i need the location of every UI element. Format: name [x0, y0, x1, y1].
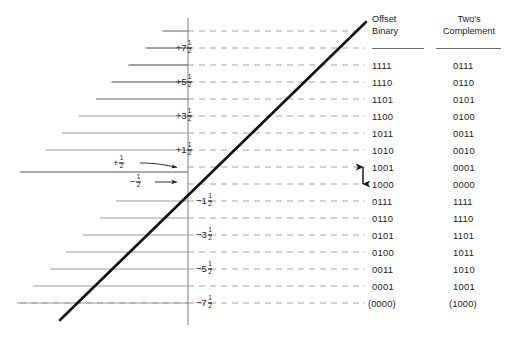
y-tick-label-plus-7-half: +712	[176, 40, 192, 55]
offset-binary-code: 1011	[372, 128, 393, 139]
offset-binary-code: 0100	[372, 247, 394, 258]
transfer-characteristic-line	[60, 22, 366, 320]
y-tick-label-minus-5-half: −512	[196, 261, 212, 276]
twos-complement-code: (1000)	[449, 298, 477, 309]
offset-binary-code: 1101	[372, 94, 393, 105]
offset-binary-code: 1001	[372, 162, 394, 173]
twos-complement-code: 0100	[453, 111, 475, 122]
annotation-minus-half: −12	[130, 174, 141, 189]
twos-complement-code: 0111	[453, 60, 473, 71]
twos-complement-code: 1110	[453, 213, 473, 224]
twos-complement-code: 1010	[453, 264, 475, 275]
offset-binary-code: 0110	[372, 213, 393, 224]
twos-complement-column-header: Two's Complement	[436, 14, 502, 37]
plus-half-arrow	[140, 163, 177, 168]
twos-complement-code: 0110	[453, 77, 474, 88]
offset-binary-code: 0101	[372, 230, 394, 241]
twos-complement-code: 1011	[453, 247, 474, 258]
diagram-canvas	[0, 0, 506, 339]
offset-binary-code: 1100	[372, 111, 393, 122]
twos-complement-code: 0011	[453, 128, 474, 139]
offset-binary-column-header: Offset Binary	[372, 14, 424, 37]
twos-complement-header-line2: Complement	[436, 26, 502, 38]
twos-complement-code: 0101	[453, 94, 475, 105]
y-tick-label-plus-3-half: +312	[176, 108, 192, 123]
offset-binary-code: 0011	[372, 264, 393, 275]
annotation-plus-half: +12	[113, 155, 124, 170]
twos-complement-code: 1001	[453, 281, 475, 292]
twos-complement-code: 0001	[453, 162, 475, 173]
offset-binary-code: 1000	[372, 179, 394, 190]
twos-complement-code: 0010	[453, 145, 475, 156]
twos-complement-code: 1111	[453, 196, 473, 207]
y-tick-label-minus-3-half: −312	[196, 227, 212, 242]
twos-complement-code: 0000	[453, 179, 475, 190]
quantization-transfer-function-figure: +712 +512 +312 +112 −112 −312 −512 −712 …	[0, 0, 506, 339]
twos-complement-code: 1101	[453, 230, 474, 241]
offset-binary-header-line2: Binary	[372, 26, 424, 38]
offset-binary-code: (0000)	[368, 298, 396, 309]
offset-binary-code: 0111	[372, 196, 392, 207]
y-tick-label-plus-1-half: +112	[176, 142, 192, 157]
solid-gridlines	[17, 31, 188, 303]
y-tick-label-plus-5-half: +512	[176, 74, 192, 89]
offset-binary-code: 1111	[372, 60, 392, 71]
y-tick-label-minus-1-half: −112	[196, 193, 212, 208]
offset-binary-header-line1: Offset	[372, 14, 424, 26]
twos-complement-header-line1: Two's	[436, 14, 502, 26]
y-tick-label-minus-7-half: −712	[196, 295, 212, 310]
offset-binary-code: 1010	[372, 145, 394, 156]
offset-binary-code: 0001	[372, 281, 394, 292]
offset-binary-code: 1110	[372, 77, 392, 88]
